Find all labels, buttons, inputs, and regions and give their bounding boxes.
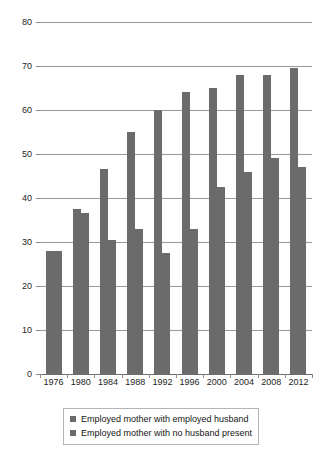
legend-swatch-series-b [70, 430, 76, 436]
bar-group-2012 [285, 22, 312, 374]
x-tick-label-2000: 2000 [203, 376, 230, 390]
bar-1984-series-1 [100, 169, 108, 374]
y-tick-label-10: 10 [22, 326, 32, 335]
plot-area [40, 22, 312, 374]
x-tick-label-1988: 1988 [122, 376, 149, 390]
x-tick-label-2012: 2012 [285, 376, 312, 390]
legend-label-series-a: Employed mother with employed husband [81, 414, 249, 424]
legend-label-series-b: Employed mother with no husband present [81, 428, 252, 438]
bar-group-2008 [258, 22, 285, 374]
bar-2008-series-1 [263, 75, 271, 374]
legend-swatch-series-a [70, 416, 76, 422]
y-tick-label-30: 30 [22, 238, 32, 247]
bar-1992-series-1 [154, 110, 162, 374]
bar-2012-series-2 [298, 167, 306, 374]
x-tickmark-2012 [312, 374, 313, 378]
bar-1980-series-1 [73, 209, 81, 374]
y-tick-label-60: 60 [22, 106, 32, 115]
bar-group-2000 [203, 22, 230, 374]
bar-1996-series-1 [182, 92, 190, 374]
bar-group-1996 [176, 22, 203, 374]
bar-group-1992 [149, 22, 176, 374]
y-tick-label-40: 40 [22, 194, 32, 203]
y-tick-label-80: 80 [22, 18, 32, 27]
bar-1988-series-1 [127, 132, 135, 374]
bar-1976-series-2 [54, 251, 62, 374]
bar-2004-series-2 [244, 172, 252, 374]
x-tick-label-1980: 1980 [67, 376, 94, 390]
bar-1976-series-1 [46, 251, 54, 374]
bars-layer [40, 22, 312, 374]
x-axis: 1976198019841988199219962000200420082012 [40, 376, 312, 390]
bar-1984-series-2 [108, 240, 116, 374]
x-tick-label-1996: 1996 [176, 376, 203, 390]
y-axis: 01020304050607080 [0, 0, 36, 392]
bar-2000-series-1 [209, 88, 217, 374]
bar-1992-series-2 [162, 253, 170, 374]
legend-item-series-b: Employed mother with no husband present [70, 426, 252, 440]
x-tick-label-1992: 1992 [149, 376, 176, 390]
legend-item-series-a: Employed mother with employed husband [70, 412, 252, 426]
x-tick-label-1984: 1984 [94, 376, 121, 390]
bar-1980-series-2 [81, 213, 89, 374]
y-tick-label-50: 50 [22, 150, 32, 159]
bar-group-1976 [40, 22, 67, 374]
bar-2004-series-1 [236, 75, 244, 374]
x-tick-label-2004: 2004 [230, 376, 257, 390]
bar-1996-series-2 [190, 229, 198, 374]
bar-group-1984 [94, 22, 121, 374]
bar-group-1988 [122, 22, 149, 374]
plot-wrapper: 01020304050607080 1976198019841988199219… [0, 0, 323, 392]
bar-1988-series-2 [135, 229, 143, 374]
chart-legend: Employed mother with employed husband Em… [63, 408, 259, 445]
x-tick-label-1976: 1976 [40, 376, 67, 390]
bar-2012-series-1 [290, 68, 298, 374]
y-tick-label-70: 70 [22, 62, 32, 71]
y-tick-label-20: 20 [22, 282, 32, 291]
bar-group-2004 [230, 22, 257, 374]
x-tick-label-2008: 2008 [258, 376, 285, 390]
y-tick-label-0: 0 [27, 370, 32, 379]
bar-2008-series-2 [271, 158, 279, 374]
bar-group-1980 [67, 22, 94, 374]
bar-2000-series-2 [217, 187, 225, 374]
bar-chart: 01020304050607080 1976198019841988199219… [0, 0, 323, 452]
